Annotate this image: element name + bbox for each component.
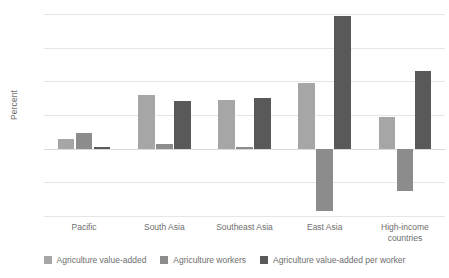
bar bbox=[236, 147, 253, 149]
legend-swatch-icon bbox=[160, 256, 168, 264]
agriculture-growth-bar-chart: Percent 86420-2-4 PacificSouth AsiaSouth… bbox=[0, 0, 449, 278]
bar bbox=[298, 83, 315, 149]
legend-label: Agriculture value-added bbox=[57, 255, 147, 265]
legend-item[interactable]: Agriculture value-added bbox=[44, 255, 147, 265]
bar bbox=[415, 71, 432, 148]
x-axis-category-label: High-income countries bbox=[365, 222, 445, 244]
x-axis-category-label: Pacific bbox=[44, 222, 124, 233]
bar bbox=[397, 149, 414, 191]
x-axis-category-label: Southeast Asia bbox=[205, 222, 285, 233]
legend-item[interactable]: Agriculture workers bbox=[160, 255, 246, 265]
legend-label: Agriculture workers bbox=[173, 255, 246, 265]
plot-area: 86420-2-4 bbox=[44, 14, 445, 216]
bar bbox=[138, 95, 155, 149]
bar bbox=[334, 16, 351, 149]
gridline bbox=[44, 14, 445, 15]
bar bbox=[254, 98, 271, 149]
chart-legend: Agriculture value-addedAgriculture worke… bbox=[0, 255, 449, 265]
gridline bbox=[44, 81, 445, 82]
bar bbox=[58, 139, 75, 148]
bar bbox=[218, 100, 235, 149]
gridline bbox=[44, 216, 445, 217]
bar bbox=[379, 117, 396, 149]
gridline bbox=[44, 182, 445, 183]
legend-swatch-icon bbox=[260, 256, 268, 264]
legend-swatch-icon bbox=[44, 256, 52, 264]
y-axis-title: Percent bbox=[9, 65, 19, 145]
bar bbox=[94, 147, 111, 148]
gridline bbox=[44, 48, 445, 49]
zero-line bbox=[44, 149, 445, 150]
x-axis-category-label: East Asia bbox=[285, 222, 365, 233]
bar bbox=[316, 149, 333, 211]
legend-item[interactable]: Agriculture value-added per worker bbox=[260, 255, 405, 265]
bar bbox=[174, 101, 191, 149]
legend-label: Agriculture value-added per worker bbox=[273, 255, 405, 265]
bar bbox=[76, 133, 93, 149]
bar bbox=[156, 144, 173, 148]
x-axis-category-label: South Asia bbox=[124, 222, 204, 233]
